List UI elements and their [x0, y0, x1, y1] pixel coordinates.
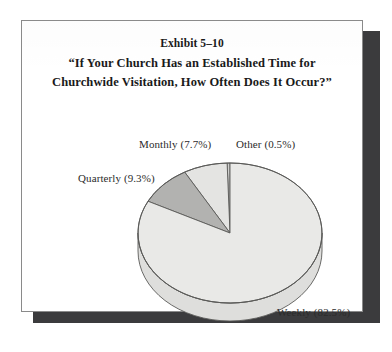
- pie-label-quarterly: Quarterly (9.3%): [78, 172, 155, 184]
- scanned-page: Exhibit 5–10 “If Your Church Has an Esta…: [0, 0, 392, 352]
- pie-chart-graphic: [43, 41, 385, 333]
- pie-label-other: Other (0.5%): [236, 138, 295, 150]
- page-sheet: Exhibit 5–10 “If Your Church Has an Esta…: [21, 20, 363, 312]
- pie-label-monthly: Monthly (7.7%): [139, 138, 211, 150]
- pie-label-weekly: Weekly (82.5%): [277, 306, 350, 318]
- pie-chart: Monthly (7.7%) Other (0.5%) Quarterly (9…: [43, 41, 385, 333]
